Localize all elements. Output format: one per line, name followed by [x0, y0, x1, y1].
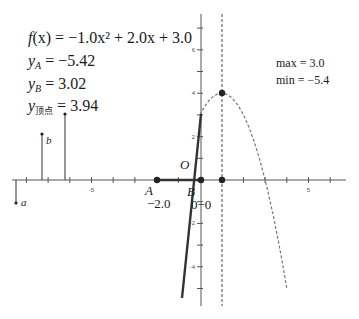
label-A-value: −2.0	[147, 196, 171, 212]
point-vertex[interactable]	[219, 90, 225, 96]
point-B[interactable]	[198, 177, 204, 183]
min-value: min = −5.4	[276, 73, 329, 87]
parabola-dashed	[200, 93, 287, 288]
yB-formula: yB = 3.02	[28, 75, 86, 98]
function-rhs: = −1.0x² + 2.0x + 3.0	[51, 29, 192, 46]
label-B-value: 0−0	[191, 197, 211, 213]
label-stem-b: b	[46, 134, 52, 146]
yvertex-sub: 顶点	[35, 106, 53, 116]
svg-text:2: 2	[192, 134, 196, 140]
svg-text:-5: -5	[89, 187, 95, 193]
point-axis-intersection[interactable]	[219, 177, 225, 183]
y-ticks	[197, 28, 203, 288]
svg-text:5: 5	[307, 187, 311, 193]
stems	[14, 112, 66, 204]
svg-text:6: 6	[192, 47, 196, 53]
label-stem-a: a	[21, 196, 27, 208]
yA-formula: yA = −5.42	[28, 52, 95, 75]
point-A[interactable]	[154, 177, 160, 183]
stem-b-tip	[40, 132, 43, 135]
function-arg: (x)	[32, 29, 51, 46]
yA-value: = −5.42	[41, 52, 95, 69]
yvertex-value: = 3.94	[53, 97, 98, 114]
yB-value: = 3.02	[41, 75, 86, 92]
max-value: max = 3.0	[276, 56, 324, 70]
function-formula: f(x) = −1.0x² + 2.0x + 3.0	[28, 29, 192, 47]
yvertex-formula: y顶点 = 3.94	[28, 97, 98, 120]
label-origin: O	[180, 157, 189, 173]
stem-a-tip	[14, 201, 17, 204]
svg-text:-4: -4	[190, 264, 196, 270]
svg-text:4: 4	[192, 90, 196, 96]
